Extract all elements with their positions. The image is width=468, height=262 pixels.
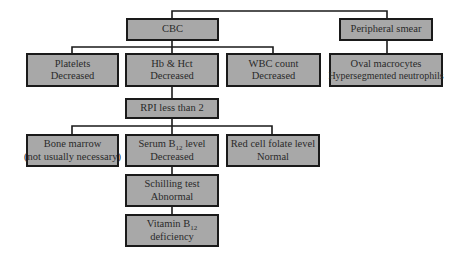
bone-marrow-label: Bone marrow bbox=[44, 138, 101, 151]
wbc-node: WBC count Decreased bbox=[226, 53, 321, 87]
vitamin-b12-text: Vitamin B bbox=[147, 218, 190, 229]
vitamin-b12-label: Vitamin B12 bbox=[147, 218, 197, 231]
oval-macrocytes-label: Oval macrocytes bbox=[351, 58, 422, 71]
schilling-status: Abnormal bbox=[151, 191, 194, 204]
serum-b12-node: Serum B12 level Decreased bbox=[125, 134, 219, 167]
vitamin-b12-node: Vitamin B12 deficiency bbox=[125, 214, 219, 247]
hypersegmented-neutrophils-label: Hypersegmented neutrophils bbox=[328, 70, 443, 83]
platelets-node: Platelets Decreased bbox=[26, 53, 119, 87]
serum-b12-label: Serum B12 level bbox=[138, 138, 205, 151]
hb-hct-label: Hb & Hct bbox=[151, 58, 192, 71]
hb-hct-status: Decreased bbox=[150, 70, 194, 83]
schilling-node: Schilling test Abnormal bbox=[125, 174, 219, 207]
serum-b12-suffix: level bbox=[183, 138, 206, 149]
red-cell-folate-node: Red cell folate level Normal bbox=[226, 134, 320, 167]
vitamin-b12-status: deficiency bbox=[150, 231, 194, 244]
peripheral-smear-label: Peripheral smear bbox=[351, 23, 422, 36]
red-cell-folate-status: Normal bbox=[257, 151, 289, 164]
platelets-label: Platelets bbox=[55, 58, 91, 71]
wbc-label: WBC count bbox=[249, 58, 299, 71]
bone-marrow-node: Bone marrow (not usually necessary) bbox=[26, 134, 119, 167]
cbc-node: CBC bbox=[126, 18, 219, 41]
peripheral-smear-node: Peripheral smear bbox=[339, 18, 433, 41]
rpi-node: RPI less than 2 bbox=[125, 98, 219, 119]
platelets-status: Decreased bbox=[51, 70, 95, 83]
schilling-label: Schilling test bbox=[144, 178, 199, 191]
serum-b12-text: Serum B bbox=[138, 138, 175, 149]
serum-b12-status: Decreased bbox=[150, 151, 194, 164]
bone-marrow-note: (not usually necessary) bbox=[24, 151, 121, 164]
red-cell-folate-label: Red cell folate level bbox=[231, 138, 315, 151]
cbc-label: CBC bbox=[162, 23, 183, 36]
wbc-status: Decreased bbox=[252, 70, 296, 83]
rpi-label: RPI less than 2 bbox=[140, 102, 203, 115]
hb-hct-node: Hb & Hct Decreased bbox=[125, 53, 219, 87]
oval-macrocytes-node: Oval macrocytes Hypersegmented neutrophi… bbox=[329, 53, 443, 87]
